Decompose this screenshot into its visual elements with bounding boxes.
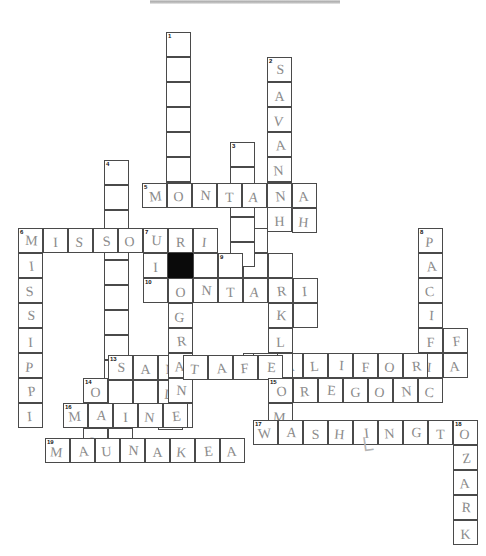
crossword-cell[interactable]: 8P bbox=[418, 228, 443, 253]
crossword-cell[interactable]: K bbox=[453, 520, 478, 545]
crossword-cell[interactable] bbox=[293, 303, 318, 328]
crossword-cell[interactable]: G bbox=[403, 420, 428, 445]
crossword-cell[interactable]: G bbox=[343, 378, 368, 403]
crossword-cell[interactable]: L bbox=[268, 328, 293, 353]
crossword-cell[interactable]: H bbox=[328, 420, 353, 445]
crossword-cell[interactable]: V bbox=[267, 107, 292, 132]
crossword-cell[interactable]: P bbox=[18, 353, 43, 378]
crossword-cell[interactable]: A bbox=[220, 438, 245, 463]
crossword-cell[interactable]: N bbox=[168, 378, 193, 403]
crossword-cell[interactable]: H bbox=[267, 207, 292, 232]
crossword-cell[interactable]: 9 bbox=[218, 253, 243, 278]
crossword-cell[interactable]: R bbox=[453, 495, 478, 520]
crossword-cell[interactable]: A bbox=[145, 438, 170, 463]
crossword-cell[interactable]: 5M bbox=[142, 183, 167, 208]
crossword-cell[interactable] bbox=[230, 217, 255, 242]
crossword-cell[interactable]: E bbox=[195, 438, 220, 463]
crossword-cell[interactable]: T bbox=[428, 420, 453, 445]
crossword-cell[interactable]: K bbox=[170, 438, 195, 463]
crossword-cell[interactable]: 16M bbox=[63, 403, 88, 428]
crossword-cell[interactable]: R bbox=[293, 378, 318, 403]
crossword-cell[interactable]: R bbox=[168, 328, 193, 353]
crossword-cell[interactable]: R bbox=[168, 228, 193, 253]
crossword-cell[interactable] bbox=[193, 253, 218, 278]
crossword-cell[interactable]: 18O bbox=[453, 420, 478, 445]
crossword-cell[interactable]: N bbox=[138, 403, 163, 428]
crossword-cell[interactable]: R bbox=[403, 353, 428, 378]
crossword-cell[interactable]: 2S bbox=[267, 57, 292, 82]
crossword-cell[interactable]: A bbox=[267, 82, 292, 107]
crossword-cell[interactable]: A bbox=[453, 470, 478, 495]
crossword-cell[interactable]: I bbox=[418, 303, 443, 328]
crossword-cell[interactable]: C bbox=[418, 378, 443, 403]
crossword-cell[interactable]: N bbox=[267, 183, 292, 208]
crossword-cell[interactable] bbox=[104, 310, 129, 335]
crossword-cell[interactable]: U bbox=[95, 438, 120, 463]
crossword-cell[interactable]: 17W bbox=[253, 420, 278, 445]
crossword-cell[interactable]: 4 bbox=[104, 160, 129, 185]
crossword-cell[interactable]: S bbox=[68, 228, 93, 253]
crossword-cell[interactable]: A bbox=[267, 132, 292, 157]
crossword-cell[interactable]: I bbox=[353, 420, 378, 445]
crossword-cell[interactable]: S bbox=[93, 228, 118, 253]
crossword-cell[interactable]: A bbox=[418, 253, 443, 278]
crossword-cell[interactable] bbox=[268, 253, 293, 278]
crossword-cell[interactable] bbox=[166, 57, 191, 82]
crossword-cell[interactable]: 3 bbox=[230, 142, 255, 167]
crossword-cell[interactable]: F bbox=[443, 328, 468, 353]
crossword-cell[interactable]: A bbox=[208, 355, 233, 380]
crossword-cell[interactable]: F bbox=[353, 353, 378, 378]
crossword-cell[interactable]: L bbox=[303, 353, 328, 378]
crossword-cell[interactable]: A bbox=[242, 183, 267, 208]
crossword-cell[interactable]: O bbox=[368, 378, 393, 403]
crossword-cell[interactable]: F bbox=[233, 355, 258, 380]
crossword-cell[interactable]: 13S bbox=[108, 355, 133, 380]
crossword-cell[interactable]: 14O bbox=[83, 378, 108, 403]
crossword-cell[interactable] bbox=[104, 185, 129, 210]
crossword-cell[interactable]: 6M bbox=[18, 228, 43, 253]
crossword-cell[interactable] bbox=[166, 157, 191, 182]
crossword-cell[interactable]: I bbox=[328, 353, 353, 378]
crossword-cell[interactable]: 19M bbox=[45, 438, 70, 463]
crossword-cell[interactable]: N bbox=[193, 278, 218, 303]
crossword-cell[interactable]: A bbox=[70, 438, 95, 463]
crossword-cell[interactable]: 7U bbox=[143, 228, 168, 253]
crossword-cell[interactable]: E bbox=[318, 378, 343, 403]
crossword-cell[interactable]: I bbox=[18, 253, 43, 278]
crossword-cell[interactable]: I bbox=[193, 228, 218, 253]
crossword-cell[interactable]: R bbox=[268, 278, 293, 303]
crossword-cell[interactable]: F bbox=[418, 328, 443, 353]
crossword-cell[interactable]: A bbox=[278, 420, 303, 445]
crossword-cell[interactable] bbox=[166, 82, 191, 107]
crossword-cell[interactable]: T bbox=[183, 355, 208, 380]
crossword-cell[interactable]: I bbox=[143, 253, 168, 278]
crossword-cell[interactable]: H bbox=[292, 208, 317, 233]
crossword-cell[interactable]: S bbox=[303, 420, 328, 445]
crossword-cell[interactable]: E bbox=[163, 403, 188, 428]
crossword-cell[interactable]: O bbox=[168, 278, 193, 303]
crossword-cell[interactable]: N bbox=[192, 183, 217, 208]
crossword-cell[interactable]: G bbox=[168, 303, 193, 328]
crossword-cell[interactable] bbox=[166, 107, 191, 132]
crossword-cell[interactable] bbox=[133, 380, 158, 405]
crossword-cell[interactable] bbox=[108, 380, 133, 405]
crossword-cell[interactable]: I bbox=[18, 328, 43, 353]
crossword-cell[interactable]: E bbox=[258, 355, 283, 380]
crossword-cell[interactable]: T bbox=[217, 183, 242, 208]
crossword-cell[interactable]: 15O bbox=[268, 378, 293, 403]
crossword-cell[interactable]: A bbox=[88, 403, 113, 428]
crossword-cell[interactable]: O bbox=[378, 353, 403, 378]
crossword-cell[interactable] bbox=[166, 132, 191, 157]
crossword-cell[interactable]: I bbox=[293, 278, 318, 303]
crossword-cell[interactable]: T bbox=[218, 278, 243, 303]
crossword-grid[interactable]: HIIFANDEME12SAVANNH345MONTANA6MISSO7URII… bbox=[0, 0, 486, 556]
crossword-cell[interactable]: 10 bbox=[143, 278, 168, 303]
crossword-cell[interactable]: S bbox=[18, 278, 43, 303]
crossword-cell[interactable]: O bbox=[118, 228, 143, 253]
crossword-cell[interactable]: N bbox=[378, 420, 403, 445]
crossword-cell[interactable]: Z bbox=[453, 445, 478, 470]
crossword-cell[interactable]: K bbox=[268, 303, 293, 328]
crossword-cell[interactable]: A bbox=[133, 355, 158, 380]
crossword-cell[interactable]: S bbox=[18, 303, 43, 328]
crossword-cell[interactable]: A bbox=[443, 353, 468, 378]
